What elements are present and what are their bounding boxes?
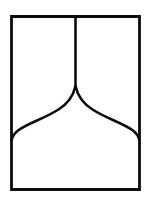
line-drawing-figure	[0, 0, 151, 207]
